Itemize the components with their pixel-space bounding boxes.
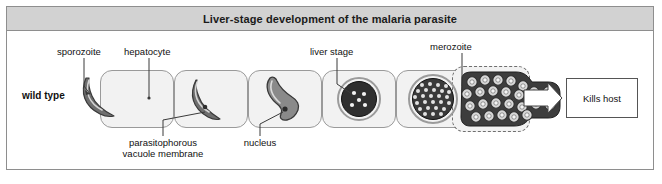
label-merozoite: merozoite [430, 41, 472, 52]
stage-cell-1 [100, 70, 174, 128]
label-pvm-line2: vacuole membrane [115, 148, 211, 159]
label-liver-stage: liver stage [310, 46, 353, 57]
malaria-liver-stage-figure: Liver-stage development of the malaria p… [0, 0, 662, 184]
stage-cell-2 [174, 70, 248, 128]
stage-cell-6-ruptured [452, 66, 530, 132]
figure-title-bar: Liver-stage development of the malaria p… [6, 6, 654, 31]
label-parasitophorous-vacuole-membrane: parasitophorous vacuole membrane [115, 137, 211, 159]
label-nucleus: nucleus [232, 137, 288, 148]
page-title: Liver-stage development of the malaria p… [203, 13, 457, 25]
stage-cell-4 [322, 70, 396, 128]
stage-cell-3 [248, 70, 322, 128]
label-sporozoite: sporozoite [57, 46, 101, 57]
outcome-label: Kills host [583, 93, 621, 104]
label-hepatocyte: hepatocyte [124, 46, 170, 57]
label-pvm-line1: parasitophorous [115, 137, 211, 148]
row-label-wild-type: wild type [22, 90, 65, 101]
outcome-box: Kills host [566, 78, 638, 118]
